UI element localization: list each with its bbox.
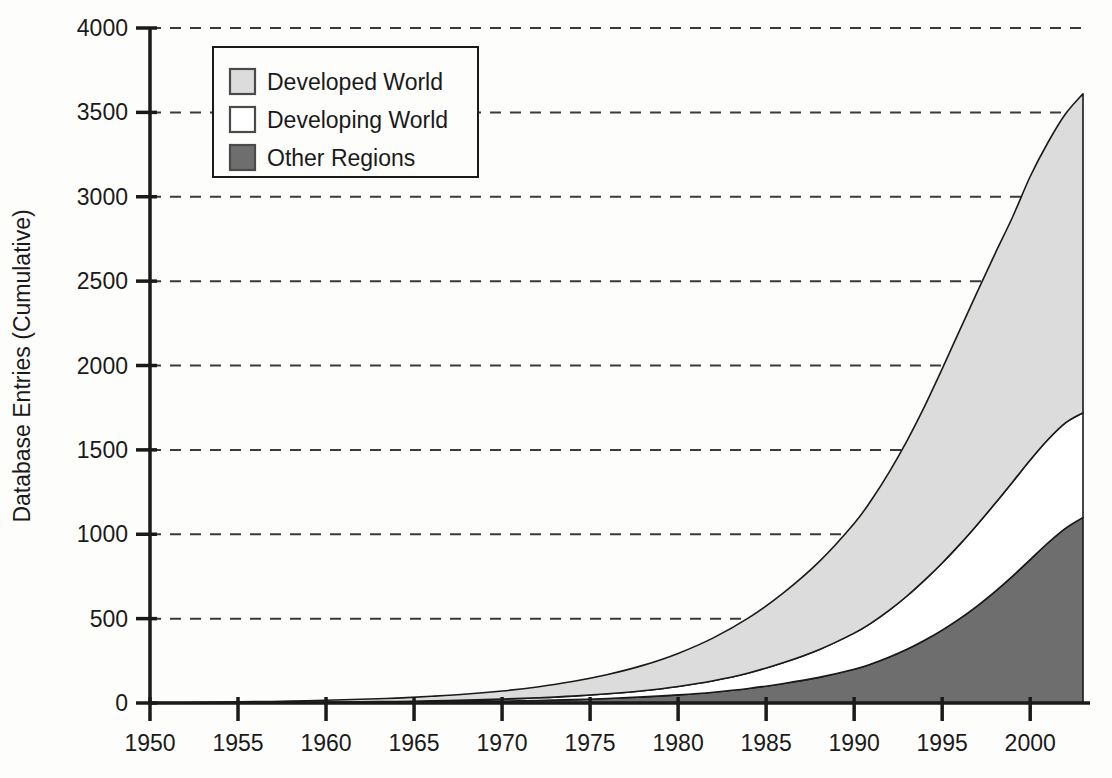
legend-label: Other Regions bbox=[267, 145, 415, 171]
legend-swatch-dark-gray-swatch bbox=[230, 145, 255, 170]
y-tick-label: 2500 bbox=[77, 268, 128, 294]
x-tick-label: 1975 bbox=[565, 730, 616, 756]
y-tick-label: 3000 bbox=[77, 184, 128, 210]
y-tick-label: 2000 bbox=[77, 353, 128, 379]
legend-swatch-white-swatch bbox=[230, 107, 255, 132]
x-tick-label: 1950 bbox=[124, 730, 175, 756]
x-tick-label: 1965 bbox=[388, 730, 439, 756]
legend: Developed WorldDeveloping WorldOther Reg… bbox=[213, 47, 478, 177]
stacked-area-chart: 05001000150020002500300035004000 1950195… bbox=[0, 0, 1112, 778]
y-tick-label: 1000 bbox=[77, 521, 128, 547]
x-tick-label: 1985 bbox=[741, 730, 792, 756]
x-tick-label: 1960 bbox=[300, 730, 351, 756]
x-tick-label: 1980 bbox=[653, 730, 704, 756]
x-tick-label: 1970 bbox=[476, 730, 527, 756]
x-tick-label: 1995 bbox=[917, 730, 968, 756]
y-tick-label: 3500 bbox=[77, 99, 128, 125]
x-tick-label: 2000 bbox=[1005, 730, 1056, 756]
legend-label: Developing World bbox=[267, 107, 448, 133]
x-tick-label: 1990 bbox=[829, 730, 880, 756]
chart-page: 05001000150020002500300035004000 1950195… bbox=[0, 0, 1112, 778]
x-tick-label: 1955 bbox=[212, 730, 263, 756]
y-tick-label: 1500 bbox=[77, 437, 128, 463]
legend-swatch-light-gray-swatch bbox=[230, 69, 255, 94]
y-tick-label: 0 bbox=[115, 690, 128, 716]
y-tick-label: 4000 bbox=[77, 15, 128, 41]
y-axis-title: Database Entries (Cumulative) bbox=[9, 209, 35, 522]
legend-label: Developed World bbox=[267, 69, 443, 95]
y-tick-label: 500 bbox=[90, 606, 128, 632]
